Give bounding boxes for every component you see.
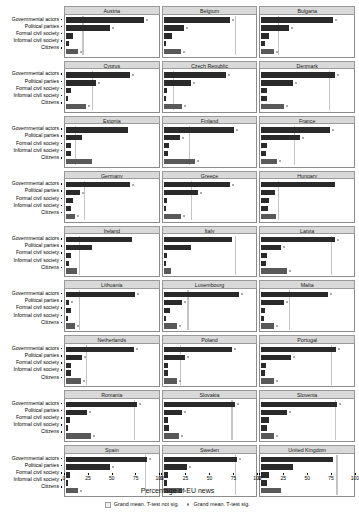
axis-tick-label: 25: [183, 476, 189, 481]
legend-label-not-sig: Grand mean. T-test not sig.: [114, 501, 179, 508]
bar: [66, 49, 78, 54]
bar: [66, 206, 71, 211]
significance-marker: [239, 458, 241, 460]
bar: [164, 159, 195, 164]
category-label: Political parties: [0, 187, 62, 194]
plot-area: [66, 71, 158, 110]
bar: [164, 363, 169, 368]
plot-area: [164, 126, 256, 165]
panel-plot: [64, 399, 160, 442]
facet-panel: Slovenia: [259, 390, 355, 442]
axis-tick-label: 50: [109, 476, 115, 481]
plot-area: [66, 400, 158, 439]
facet-strip-label: Ireland: [64, 226, 160, 235]
significance-marker: [338, 348, 340, 350]
axis-tick-label: 50: [207, 476, 213, 481]
significance-marker: [77, 215, 79, 217]
significance-marker: [337, 74, 339, 76]
bar: [261, 300, 284, 305]
plot-area: [164, 345, 256, 384]
facet-strip-label: Spain: [64, 445, 160, 454]
panel-plot: [259, 234, 355, 277]
category-label: Citizens: [0, 209, 62, 216]
category-axis-labels: Governmental actorsPolitical partiesForm…: [0, 6, 62, 58]
bar: [164, 182, 230, 187]
facet-strip-label: Portugal: [259, 335, 355, 344]
bar: [261, 245, 281, 250]
category-axis-labels: Governmental actorsPolitical partiesForm…: [0, 226, 62, 278]
panel-plot: [259, 15, 355, 58]
panel-plot: [64, 179, 160, 222]
plot-area: [261, 290, 353, 329]
facet-strip-label: France: [259, 116, 355, 125]
facet-panel: France: [259, 116, 355, 168]
significance-marker: [286, 105, 288, 107]
bar: [164, 316, 167, 321]
significance-marker: [337, 239, 339, 241]
bar: [66, 402, 137, 407]
bar: [261, 151, 266, 156]
bar: [66, 143, 71, 148]
significance-marker: [197, 160, 199, 162]
plot-area: [261, 16, 353, 55]
bar: [66, 347, 134, 352]
significance-marker: [112, 27, 114, 29]
category-axis-labels: Governmental actorsPolitical partiesForm…: [0, 280, 62, 332]
bar: [164, 104, 182, 109]
category-label: Political parties: [0, 242, 62, 249]
panel-plot: [64, 124, 160, 167]
bar: [164, 261, 167, 266]
significance-marker: [279, 160, 281, 162]
bar: [66, 127, 128, 132]
bar: [261, 425, 266, 430]
panel-plot: [259, 399, 355, 442]
panel-plot: [162, 15, 258, 58]
bar: [66, 417, 70, 422]
bar: [66, 25, 110, 30]
facet-panel: Belgium: [162, 6, 258, 58]
bar: [164, 300, 182, 305]
significance-marker: [139, 403, 141, 405]
category-label: Governmental actors: [0, 70, 62, 77]
bar: [261, 363, 266, 368]
category-label: Governmental actors: [0, 400, 62, 407]
bar: [164, 190, 198, 195]
bar: [164, 433, 180, 438]
bar: [164, 417, 169, 422]
bar: [261, 355, 290, 360]
axis-tick-label: 0: [160, 476, 163, 481]
category-label: Informal civil society: [0, 312, 62, 319]
category-label: Governmental actors: [0, 290, 62, 297]
bar: [261, 433, 274, 438]
axis-tick-label: 100: [351, 476, 359, 481]
plot-area: [66, 236, 158, 275]
panel-plot: [162, 69, 258, 112]
bar: [164, 347, 233, 352]
plot-area: [261, 236, 353, 275]
panel-plot: [259, 344, 355, 387]
bar: [164, 464, 187, 469]
facet-strip-label: United Kingdom: [259, 445, 355, 454]
plot-area: [164, 181, 256, 220]
category-axis-labels: Governmental actorsPolitical partiesForm…: [0, 116, 62, 168]
panel-plot: [162, 124, 258, 167]
facet-strip-label: Greece: [162, 171, 258, 180]
facet-strip-label: Belgium: [162, 6, 258, 15]
significance-marker: [132, 184, 134, 186]
category-label: Informal civil society: [0, 257, 62, 264]
significance-marker: [184, 411, 186, 413]
bar: [66, 159, 92, 164]
category-label: Informal civil society: [0, 147, 62, 154]
plot-area: [164, 71, 256, 110]
plot-area: [164, 400, 256, 439]
significance-marker: [89, 411, 91, 413]
bar: [261, 347, 336, 352]
x-axis-row: 0255075100 0255075100 0255075100: [0, 473, 355, 485]
bar: [66, 88, 71, 93]
bar: [66, 253, 71, 258]
bar: [164, 72, 226, 77]
axis-tick-label: 25: [85, 476, 91, 481]
axis-tick-label: 0: [258, 476, 261, 481]
facet-panel: Luxembourg: [162, 280, 258, 332]
